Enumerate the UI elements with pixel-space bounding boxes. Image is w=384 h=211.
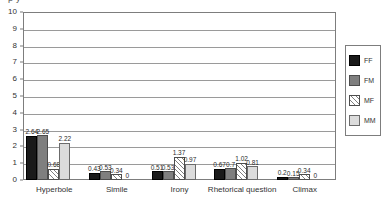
x-category-label: Climax [292,186,316,194]
gridline [24,147,335,148]
y-tick-label: 4 [13,109,17,117]
y-tick-label: 6 [13,75,17,83]
gridline [24,164,335,165]
gridline [24,131,335,132]
gridline [24,97,335,98]
chart-legend: FFFMMFMM [345,45,381,136]
legend-item-ff[interactable]: FF [349,50,377,70]
x-category-label: Irony [171,186,189,194]
y-tick-label: 0 [13,176,17,184]
legend-item-mm[interactable]: MM [349,110,377,130]
x-category-label: Simile [106,186,128,194]
x-category-label: Hyperbole [36,186,72,194]
legend-swatch-icon [349,115,360,126]
y-tick-label: 1 [13,159,17,167]
gridline [24,63,335,64]
legend-swatch-icon [349,95,360,106]
legend-swatch-icon [349,55,360,66]
y-tick-label: 7 [13,58,17,66]
plot-area [23,12,336,180]
legend-item-mf[interactable]: MF [349,90,377,110]
gridline [24,30,335,31]
legend-label: MM [364,117,376,124]
y-tick-label: 5 [13,92,17,100]
y-tick-label: 9 [13,25,17,33]
legend-label: MF [364,97,374,104]
gridline [24,47,335,48]
legend-swatch-icon [349,75,360,86]
y-tick-label: 3 [13,126,17,134]
y-tick-label: 10 [8,8,17,16]
legend-item-fm[interactable]: FM [349,70,377,90]
legend-label: FM [364,77,374,84]
y-axis: 012345678910 [0,12,23,180]
gridline [24,114,335,115]
bar-chart: 012345678910 2.642.650.682.220.430.530.3… [0,0,384,211]
x-axis: HyperboleSimileIronyRhetorical questionC… [23,186,336,204]
y-tick-label: 8 [13,42,17,50]
y-tick-label: 2 [13,142,17,150]
legend-label: FF [364,57,373,64]
gridline [24,80,335,81]
x-category-label: Rhetorical question [208,186,276,194]
